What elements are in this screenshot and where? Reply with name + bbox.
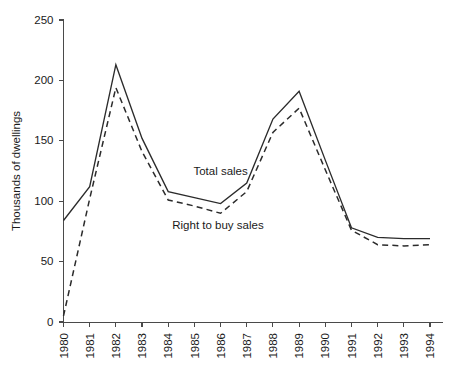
chart-figure: 050100150200250 198019811982198319841985… [0, 0, 473, 380]
x-tick-label: 1980 [58, 333, 70, 359]
x-tick-label: 1985 [189, 333, 201, 359]
series-annotation-label: Right to buy sales [172, 219, 264, 231]
y-tick-label: 0 [47, 316, 53, 328]
x-tick-label: 1981 [84, 333, 96, 359]
x-tick-label: 1993 [398, 333, 410, 359]
y-tick-marks [59, 20, 64, 322]
x-tick-label: 1989 [293, 333, 305, 359]
x-tick-label: 1986 [215, 333, 227, 359]
x-tick-label: 1994 [424, 332, 436, 358]
y-tick-label: 150 [34, 134, 53, 146]
series-annotation-label: Total sales [193, 165, 248, 177]
x-tick-label: 1984 [162, 332, 174, 358]
y-tick-label: 100 [34, 195, 53, 207]
x-tick-label: 1983 [136, 333, 148, 359]
y-tick-labels: 050100150200250 [34, 14, 53, 328]
x-tick-label: 1988 [267, 333, 279, 359]
series-line-total-sales [64, 65, 431, 239]
x-tick-label: 1990 [319, 333, 331, 359]
y-tick-label: 200 [34, 74, 53, 86]
x-tick-labels: 1980198119821983198419851986198719881989… [58, 332, 437, 358]
x-tick-label: 1992 [372, 333, 384, 359]
y-tick-label: 250 [34, 14, 53, 26]
x-tick-label: 1991 [346, 333, 358, 359]
x-tick-label: 1982 [110, 333, 122, 359]
series-line-right-to-buy-sales [64, 88, 431, 316]
x-tick-label: 1987 [241, 333, 253, 359]
y-tick-label: 50 [41, 255, 54, 267]
y-axis-title: Thousands of dwellings [10, 111, 22, 231]
line-chart: 050100150200250 198019811982198319841985… [0, 0, 473, 380]
